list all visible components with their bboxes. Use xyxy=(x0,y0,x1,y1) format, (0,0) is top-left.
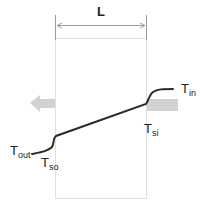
label-t-so-sub: so xyxy=(49,162,59,172)
heat-flow-in-arrow-icon xyxy=(147,99,178,111)
label-t-so-main: T xyxy=(41,155,49,170)
label-t-si-main: T xyxy=(144,121,152,136)
label-t-so: Tso xyxy=(41,156,58,169)
wall-outline xyxy=(56,39,147,199)
label-t-si: Tsi xyxy=(144,122,158,135)
label-t-out: Tout xyxy=(10,144,30,157)
heat-flow-out-arrow-icon xyxy=(30,95,55,112)
dimension-label-L: L xyxy=(97,5,105,18)
label-t-in: Tin xyxy=(181,82,196,95)
wall-diagram xyxy=(0,0,203,206)
label-t-si-sub: si xyxy=(152,128,159,138)
label-t-out-sub: out xyxy=(18,150,31,160)
label-t-in-sub: in xyxy=(189,88,196,98)
label-t-out-main: T xyxy=(10,143,18,158)
label-t-in-main: T xyxy=(181,81,189,96)
